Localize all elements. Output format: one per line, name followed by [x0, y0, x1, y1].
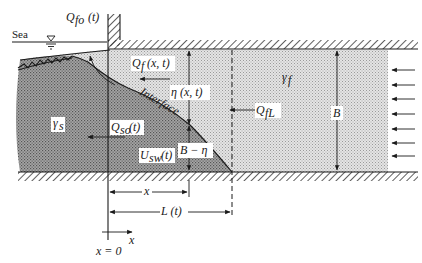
- qfl-label: Q fL: [255, 103, 281, 120]
- svg-text:(t): (t): [129, 120, 140, 134]
- sea-label: Sea: [12, 28, 28, 40]
- svg-text:η (x, t): η (x, t): [171, 85, 203, 99]
- x-dimension-label: x: [142, 184, 152, 198]
- svg-text:γ: γ: [53, 116, 58, 130]
- svg-text:(t): (t): [161, 148, 172, 162]
- svg-text:Q: Q: [66, 10, 75, 24]
- gamma-s-label: γ s: [51, 116, 65, 133]
- svg-text:Q: Q: [132, 56, 141, 70]
- salt-wedge-diagram: Sea Q fo (t) Q f (x, t) η (x, t) Interfa…: [0, 0, 422, 263]
- l-dimension-label: L (t): [160, 204, 188, 218]
- b-label: B: [331, 106, 343, 120]
- svg-text:s: s: [59, 119, 64, 133]
- channel-top-bank: [108, 14, 418, 49]
- river-inflow-arrows: [392, 70, 415, 156]
- usw-label: U sw (t): [139, 148, 175, 165]
- svg-text:B − η: B − η: [180, 143, 207, 157]
- svg-text:γ: γ: [282, 70, 287, 84]
- svg-text:Q: Q: [111, 120, 120, 134]
- svg-text:L (t): L (t): [160, 204, 182, 218]
- svg-text:B: B: [333, 106, 341, 120]
- svg-text:x: x: [143, 184, 150, 198]
- qso-label: Q so (t): [110, 120, 144, 137]
- svg-text:(x, t): (x, t): [147, 56, 170, 70]
- origin-label: x = 0: [95, 244, 121, 258]
- svg-text:sw: sw: [149, 151, 162, 165]
- eta-label: η (x, t): [170, 85, 210, 100]
- channel-bed: [18, 172, 418, 181]
- svg-text:(t): (t): [88, 10, 99, 24]
- x-axis-label: x: [128, 233, 135, 247]
- b-minus-eta-label: B − η: [178, 143, 213, 158]
- qf-label: Q f (x, t): [131, 56, 175, 73]
- svg-text:Q: Q: [256, 103, 265, 117]
- qfo-label: Q fo (t): [66, 10, 99, 27]
- svg-text:fL: fL: [265, 106, 275, 120]
- svg-text:fo: fo: [75, 13, 84, 27]
